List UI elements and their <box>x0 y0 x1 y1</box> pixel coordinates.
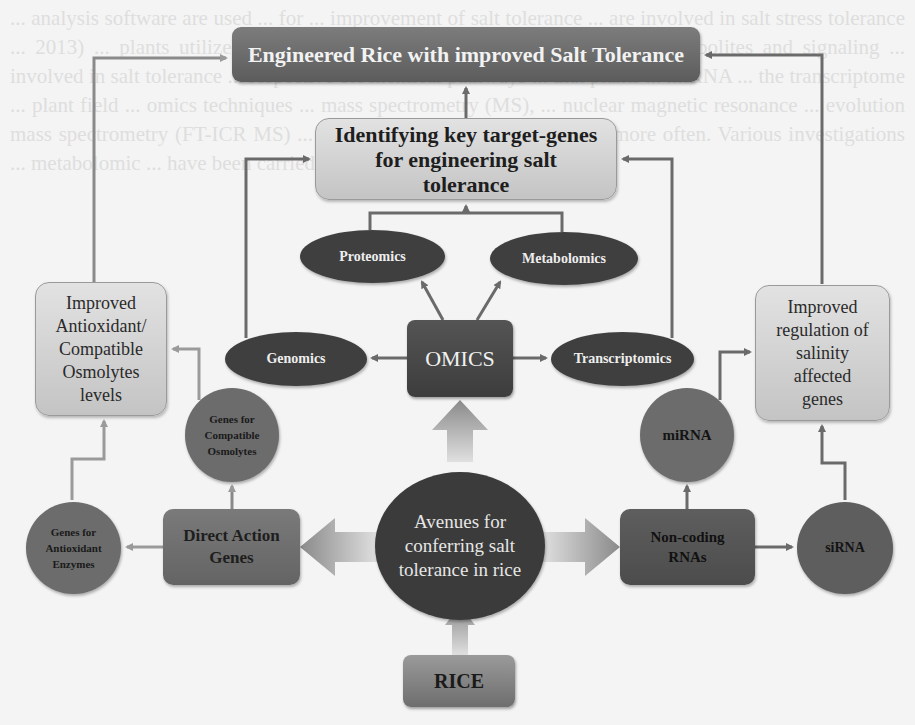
rice-node: RICE <box>403 655 515 707</box>
antioxidant-enzymes-genes-node: Genes for Antioxidant Enzymes <box>26 502 121 594</box>
big-arrow-avenues-to-omics <box>432 400 488 462</box>
arrow-left-outcome-to-title <box>94 58 226 282</box>
metabolomics-label: Metabolomics <box>522 251 606 267</box>
big-arrow-avenues-to-noncoding <box>542 518 620 576</box>
metabolomics-node: Metabolomics <box>490 232 638 285</box>
arrow-mirna-to-right-outcome <box>720 352 750 400</box>
mirna-label: miRNA <box>662 427 711 444</box>
arrow-genomics-to-identify <box>246 159 309 338</box>
noncoding-rnas-node: Non-coding RNAs <box>620 509 755 585</box>
osmolytes-label: Genes for Compatible Osmolytes <box>193 411 271 459</box>
arrow-osmolytes-to-left-outcome <box>173 349 199 400</box>
arrow-proteomics-metabolomics-to-identify <box>370 213 562 232</box>
arrow-omics-to-proteomics <box>422 282 443 320</box>
avenues-central-node: Avenues for conferring salt tolerance in… <box>375 472 545 620</box>
rice-label: RICE <box>434 670 484 693</box>
direct-action-label: Direct Action Genes <box>177 525 286 569</box>
identify-node-label: Identifying key target-genes for enginee… <box>334 122 598 197</box>
direct-action-genes-node: Direct Action Genes <box>163 509 300 585</box>
omics-label: OMICS <box>425 346 495 372</box>
transcriptomics-node: Transcriptomics <box>551 332 694 386</box>
left-outcome-label: Improved Antioxidant/ Compatible Osmolyt… <box>46 292 156 407</box>
transcriptomics-label: Transcriptomics <box>574 351 672 367</box>
sirna-node: siRNA <box>797 502 893 594</box>
genomics-label: Genomics <box>266 351 325 367</box>
antioxidant-enzymes-label: Genes for Antioxidant Enzymes <box>32 524 115 572</box>
big-arrow-avenues-to-direct <box>300 518 378 576</box>
salinity-gene-regulation-outcome-node: Improved regulation of salinity affected… <box>755 285 890 421</box>
antioxidant-osmolytes-outcome-node: Improved Antioxidant/ Compatible Osmolyt… <box>35 282 167 416</box>
proteomics-node: Proteomics <box>300 230 445 283</box>
arrow-sirna-to-right-outcome <box>822 426 845 500</box>
avenues-label: Avenues for conferring salt tolerance in… <box>391 510 529 582</box>
identify-target-genes-node: Identifying key target-genes for enginee… <box>315 118 617 200</box>
arrow-right-outcome-to-title <box>706 55 822 284</box>
proteomics-label: Proteomics <box>339 249 406 265</box>
title-node-label: Engineered Rice with improved Salt Toler… <box>248 42 684 68</box>
sirna-label: siRNA <box>825 540 865 556</box>
genomics-node: Genomics <box>225 332 367 386</box>
mirna-node: miRNA <box>640 388 734 482</box>
omics-node: OMICS <box>407 320 513 397</box>
arrow-omics-to-metabolomics <box>477 282 500 320</box>
compatible-osmolytes-genes-node: Genes for Compatible Osmolytes <box>185 388 279 482</box>
noncoding-label: Non-coding RNAs <box>640 527 735 567</box>
right-outcome-label: Improved regulation of salinity affected… <box>772 296 873 411</box>
engineered-rice-title-node: Engineered Rice with improved Salt Toler… <box>232 27 700 82</box>
arrow-antioxidant-to-left-outcome <box>72 421 104 500</box>
